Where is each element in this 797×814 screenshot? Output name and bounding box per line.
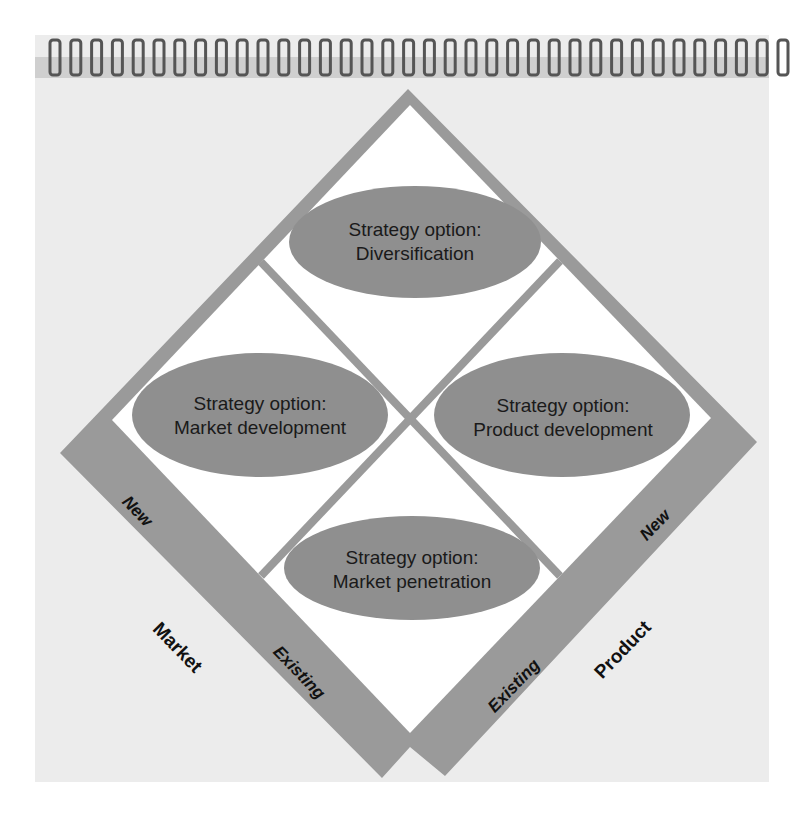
quadrant-title: Strategy option: [300, 218, 530, 242]
quadrant-strategy: Market development [140, 416, 380, 440]
quadrant-title: Strategy option: [292, 546, 532, 570]
quadrant-title: Strategy option: [443, 394, 683, 418]
quadrant-market-penetration: Strategy option: Market penetration [292, 546, 532, 594]
quadrant-strategy: Market penetration [292, 570, 532, 594]
quadrant-product-development: Strategy option: Product development [443, 394, 683, 442]
quadrant-title: Strategy option: [140, 392, 380, 416]
quadrant-diversification: Strategy option: Diversification [300, 218, 530, 266]
quadrant-market-development: Strategy option: Market development [140, 392, 380, 440]
quadrant-strategy: Diversification [300, 242, 530, 266]
quadrant-strategy: Product development [443, 418, 683, 442]
notepad-figure: Strategy option: Diversification Strateg… [0, 0, 797, 814]
